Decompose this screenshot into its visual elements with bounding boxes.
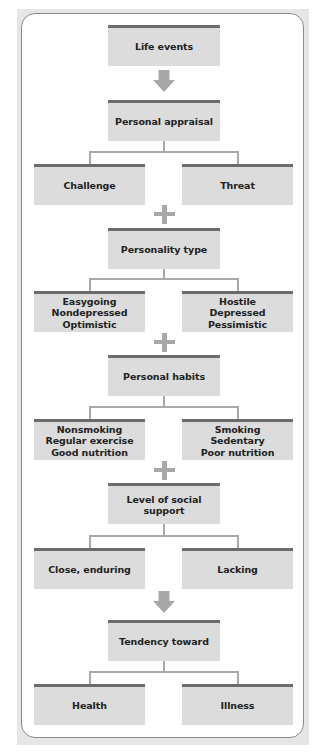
node-support-lacking: Lacking [182,548,293,589]
connector-line [89,278,239,280]
connector-line [89,406,91,419]
node-label: Personal habits [123,371,205,383]
node-label: Tendency toward [119,636,209,648]
node-habits-healthy: Nonsmoking Regular exercise Good nutriti… [34,419,145,460]
node-label: Sedentary [201,435,275,447]
connector-line [89,535,239,537]
connector-line [237,151,239,164]
connector-line [89,535,91,548]
node-label: Nondepressed [52,307,128,319]
node-label: Threat [220,180,255,192]
node-label: Illness [221,700,255,712]
node-label: Easygoing [52,296,128,308]
node-social-support: Level of social support [108,483,220,524]
node-illness: Illness [182,684,293,725]
node-label: Level of social support [108,494,220,517]
node-challenge: Challenge [34,164,145,205]
node-health: Health [34,684,145,725]
node-label: Life events [135,41,193,53]
connector-line [237,671,239,684]
node-label: Hostile [208,296,267,308]
connector-line [89,278,91,291]
node-life-events: Life events [108,25,220,66]
connector-line [89,406,239,408]
node-label: Personality type [121,244,207,256]
node-personality-type: Personality type [108,228,220,269]
node-personality-positive: Easygoing Nondepressed Optimistic [34,291,145,332]
node-label: Close, enduring [48,564,131,576]
node-threat: Threat [182,164,293,205]
connector-line [89,151,239,153]
arrow-down-icon [153,70,175,92]
node-label: Poor nutrition [201,447,275,459]
node-label: Good nutrition [45,447,133,459]
node-label: Pessimistic [208,319,267,331]
node-personal-appraisal: Personal appraisal [108,100,220,141]
connector-line [237,535,239,548]
node-label: Personal appraisal [115,116,213,128]
node-label: Challenge [63,180,115,192]
connector-line [237,406,239,419]
connector-line [237,278,239,291]
node-label: Smoking [201,424,275,436]
node-label: Nonsmoking [45,424,133,436]
node-personal-habits: Personal habits [108,355,220,396]
connector-line [89,671,239,673]
connector-line [89,151,91,164]
node-tendency-toward: Tendency toward [108,620,220,661]
connector-line [89,671,91,684]
node-label: Regular exercise [45,435,133,447]
node-habits-unhealthy: Smoking Sedentary Poor nutrition [182,419,293,460]
node-label: Optimistic [52,319,128,331]
node-label: Lacking [217,564,258,576]
node-personality-negative: Hostile Depressed Pessimistic [182,291,293,332]
node-label: Health [72,700,107,712]
arrow-down-icon [153,591,175,613]
node-support-close: Close, enduring [34,548,145,589]
node-label: Depressed [208,307,267,319]
